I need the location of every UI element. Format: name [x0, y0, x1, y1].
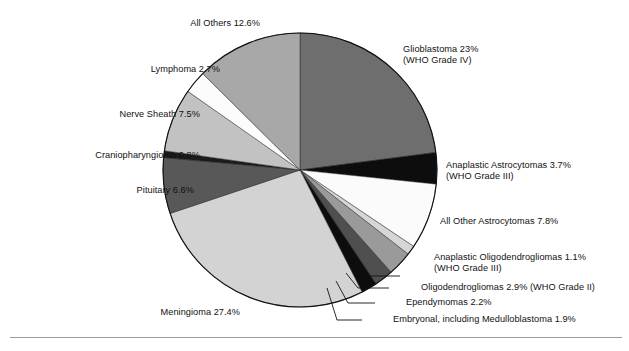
pie-chart: All Others 12.6% Lymphoma 2.7% Nerve She… — [0, 0, 629, 351]
pie-label-embryonal-text: Embryonal, including Medulloblastoma 1.9… — [393, 314, 576, 324]
pie-label-all-other-astrocytomas-text: All Other Astrocytomas 7.8% — [440, 216, 558, 226]
pie-label-oligodendrogliomas: Oligodendrogliomas 2.9% (WHO Grade II) — [421, 282, 595, 293]
pie-label-anaplastic-astrocytomas-grade: (WHO Grade III) — [446, 171, 571, 182]
pie-label-oligodendrogliomas-text: Oligodendrogliomas 2.9% (WHO Grade II) — [421, 282, 595, 292]
pie-label-anaplastic-oligodendrogliomas-text: Anaplastic Oligodendrogliomas 1.1% — [434, 252, 586, 263]
pie-label-meningioma-text: Meningioma 27.4% — [161, 307, 240, 317]
pie-label-anaplastic-oligodendrogliomas: Anaplastic Oligodendrogliomas 1.1% (WHO … — [434, 252, 586, 275]
pie-label-anaplastic-astrocytomas-text: Anaplastic Astrocytomas 3.7% — [446, 160, 571, 171]
pie-label-meningioma: Meningioma 27.4% — [60, 307, 240, 318]
pie-label-ependymomas: Ependymomas 2.2% — [406, 297, 492, 308]
pie-label-lymphoma: Lymphoma 2.7% — [20, 64, 220, 75]
pie-label-all-other-astrocytomas: All Other Astrocytomas 7.8% — [440, 216, 558, 227]
pie-label-craniopharyngioma: Craniopharyngioma 0.8% — [0, 150, 200, 161]
pie-label-embryonal: Embryonal, including Medulloblastoma 1.9… — [393, 314, 576, 325]
pie-label-anaplastic-oligodendrogliomas-grade: (WHO Grade III) — [434, 263, 586, 274]
pie-label-ependymomas-text: Ependymomas 2.2% — [406, 297, 492, 307]
pie-label-pituitary-text: Pituitary 6.6% — [137, 185, 194, 195]
pie-label-craniopharyngioma-text: Craniopharyngioma 0.8% — [95, 150, 200, 160]
pie-label-nerve-sheath: Nerve Sheath 7.5% — [0, 109, 200, 120]
pie-label-pituitary: Pituitary 6.6% — [0, 185, 194, 196]
footer-divider — [10, 337, 622, 338]
pie-label-glioblastoma-grade: (WHO Grade IV) — [403, 55, 478, 66]
pie-label-glioblastoma-text: Glioblastoma 23% — [403, 44, 478, 55]
pie-label-anaplastic-astrocytomas: Anaplastic Astrocytomas 3.7% (WHO Grade … — [446, 160, 571, 183]
pie-label-lymphoma-text: Lymphoma 2.7% — [151, 64, 220, 74]
pie-label-glioblastoma: Glioblastoma 23% (WHO Grade IV) — [403, 44, 478, 67]
pie-label-nerve-sheath-text: Nerve Sheath 7.5% — [119, 109, 200, 119]
pie-label-all-others-text: All Others 12.6% — [190, 18, 260, 28]
pie-label-all-others: All Others 12.6% — [60, 18, 260, 29]
